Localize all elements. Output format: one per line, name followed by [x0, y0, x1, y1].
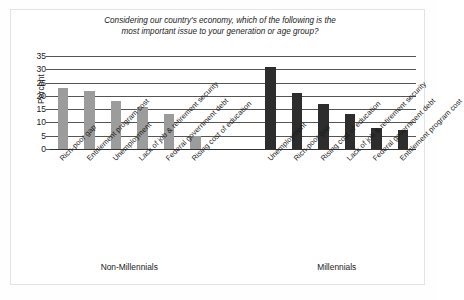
bar: [398, 130, 409, 149]
y-tick-mark-30: [46, 69, 50, 70]
y-tick-label-15: 15: [36, 104, 46, 114]
y-tick-mark-5: [46, 136, 50, 137]
gridline-35: [50, 56, 416, 57]
chart-title: Considering our country's economy, which…: [40, 15, 400, 37]
gridline-30: [50, 69, 416, 70]
axis-baseline: [50, 149, 416, 150]
bar: [164, 114, 175, 149]
bar: [111, 101, 122, 149]
bar: [137, 107, 148, 150]
bar: [318, 104, 329, 149]
y-tick-label-10: 10: [36, 117, 46, 127]
bar: [58, 88, 69, 149]
y-tick-mark-10: [46, 122, 50, 123]
chart-title-line-2: most important issue to your generation …: [40, 26, 400, 37]
y-tick-label-30: 30: [36, 64, 46, 74]
group-label: Millennials: [317, 262, 356, 272]
y-tick-mark-0: [46, 149, 50, 150]
y-tick-mark-25: [46, 83, 50, 84]
bar: [265, 67, 276, 149]
y-tick-label-25: 25: [36, 78, 46, 88]
gridline-20: [50, 96, 416, 97]
bar: [84, 91, 95, 149]
y-tick-mark-20: [46, 96, 50, 97]
bar: [371, 128, 382, 149]
gridline-25: [50, 83, 416, 84]
gridline-5: [50, 136, 416, 137]
gridline-15: [50, 109, 416, 110]
y-tick-label-20: 20: [36, 91, 46, 101]
gridline-10: [50, 122, 416, 123]
y-tick-mark-15: [46, 109, 50, 110]
chart-title-line-1: Considering our country's economy, which…: [40, 15, 400, 26]
y-tick-label-35: 35: [36, 51, 46, 61]
bar: [292, 93, 303, 149]
bar: [190, 136, 201, 149]
group-label: Non-Millennials: [101, 262, 158, 272]
plot-area: 05101520253035: [50, 56, 416, 149]
bar: [345, 114, 356, 149]
y-tick-mark-35: [46, 56, 50, 57]
